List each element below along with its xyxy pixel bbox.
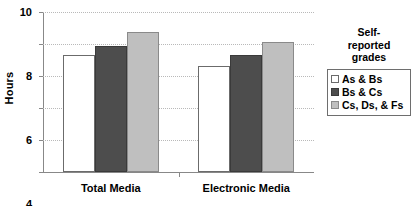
legend-swatch-icon bbox=[331, 75, 339, 83]
plot-area: 0246810 bbox=[43, 12, 314, 173]
legend-item: Bs & Cs bbox=[331, 86, 407, 99]
y-tick-mark: 0 bbox=[39, 172, 43, 173]
y-tick-label: 8 bbox=[26, 70, 32, 82]
y-tick-label: 6 bbox=[26, 134, 32, 146]
y-tick-mark: 6 bbox=[39, 76, 43, 77]
legend-item-label: As & Bs bbox=[342, 73, 382, 85]
legend-item-label: Bs & Cs bbox=[342, 86, 382, 98]
bar bbox=[95, 46, 127, 172]
legend-title: Self- reported grades bbox=[327, 26, 411, 64]
bar-chart-figure: Hours 0246810 Total Media Electronic Med… bbox=[0, 0, 414, 206]
y-tick-label: 4 bbox=[26, 198, 32, 206]
x-tick-mark bbox=[179, 172, 180, 177]
bar bbox=[63, 55, 95, 172]
legend-swatch-icon bbox=[331, 88, 339, 96]
x-axis-group-label-total-media: Total Media bbox=[81, 182, 141, 194]
legend-item-label: Cs, Ds, & Fs bbox=[342, 99, 403, 111]
legend: Self- reported grades As & BsBs & CsCs, … bbox=[327, 26, 411, 116]
legend-title-line-1: Self- bbox=[327, 26, 411, 39]
legend-item: Cs, Ds, & Fs bbox=[331, 99, 407, 112]
legend-title-line-2: reported bbox=[327, 39, 411, 52]
bar bbox=[230, 55, 262, 172]
bar bbox=[262, 42, 294, 172]
y-tick-mark: 8 bbox=[39, 44, 43, 45]
y-tick-mark: 2 bbox=[39, 140, 43, 141]
y-tick-label: 10 bbox=[20, 6, 32, 18]
x-axis-group-label-electronic-media: Electronic Media bbox=[203, 182, 290, 194]
bar bbox=[127, 32, 159, 172]
legend-box: As & BsBs & CsCs, Ds, & Fs bbox=[327, 69, 411, 116]
y-axis-line bbox=[43, 12, 44, 173]
y-axis-title: Hours bbox=[3, 58, 15, 118]
gridline bbox=[43, 12, 314, 13]
y-tick-mark: 10 bbox=[39, 12, 43, 13]
bar bbox=[198, 66, 230, 172]
legend-item: As & Bs bbox=[331, 73, 407, 86]
legend-title-line-3: grades bbox=[327, 51, 411, 64]
legend-swatch-icon bbox=[331, 101, 339, 109]
y-tick-mark: 4 bbox=[39, 108, 43, 109]
